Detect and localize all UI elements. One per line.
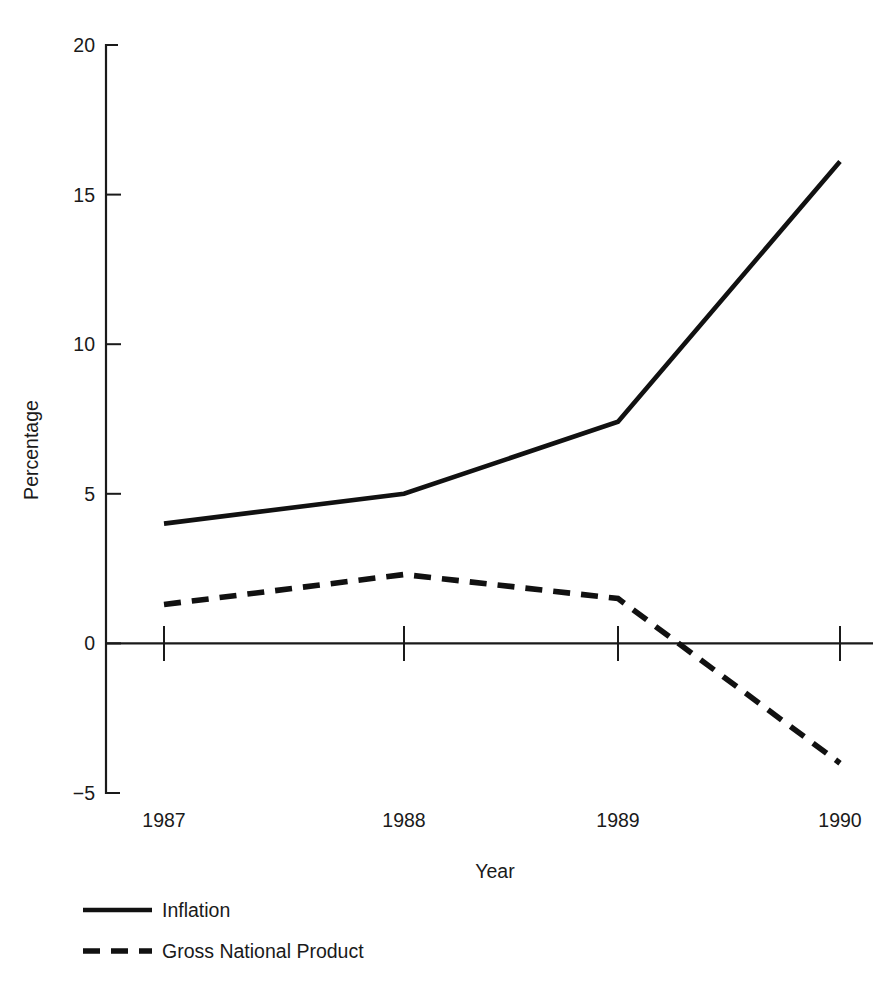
- y-tick-label-20: 20: [73, 34, 95, 56]
- x-tick-label-1987: 1987: [142, 809, 185, 831]
- x-axis: 1987 1988 1989 1990 Year: [106, 626, 873, 882]
- y-tick-label-10: 10: [73, 333, 95, 355]
- y-tick-label-minus-5: −5: [73, 782, 95, 804]
- y-tick-label-0: 0: [84, 632, 95, 654]
- x-axis-title: Year: [475, 860, 515, 882]
- y-axis: 20 15 10 5 0 −5 Percentage: [20, 34, 121, 804]
- series-line-gross-national-product: [164, 575, 840, 764]
- line-chart-svg: 20 15 10 5 0 −5 Percentage 1987 1988 198…: [0, 0, 887, 981]
- legend-label-gross-national-product: Gross National Product: [162, 940, 364, 962]
- x-tick-label-1990: 1990: [818, 809, 862, 831]
- y-tick-label-15: 15: [73, 184, 95, 206]
- legend-label-inflation: Inflation: [162, 899, 230, 921]
- x-tick-label-1988: 1988: [382, 809, 425, 831]
- plot-series-group: [164, 161, 840, 763]
- x-tick-label-1989: 1989: [596, 809, 639, 831]
- y-axis-title: Percentage: [20, 400, 42, 500]
- series-line-inflation: [164, 161, 840, 523]
- y-tick-label-5: 5: [84, 483, 95, 505]
- y-axis-spine: [106, 45, 120, 793]
- chart-figure: 20 15 10 5 0 −5 Percentage 1987 1988 198…: [0, 0, 887, 981]
- legend: Inflation Gross National Product: [83, 899, 364, 962]
